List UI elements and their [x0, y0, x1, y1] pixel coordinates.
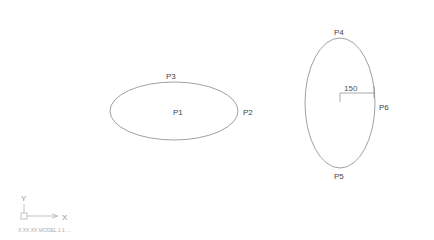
ellipse-vertical[interactable]: P4 P5 P6: [305, 28, 389, 181]
dimension-value: 150: [344, 84, 358, 93]
label-p2: P2: [243, 108, 253, 117]
label-p3: P3: [166, 72, 176, 81]
ucs-icon: Y X: [21, 194, 68, 222]
radius-dimension[interactable]: 150: [340, 84, 375, 102]
status-bar: X:XX,XX MODEL 1:1 ...: [18, 226, 434, 234]
label-p5: P5: [334, 172, 344, 181]
label-p4: P4: [334, 28, 344, 37]
ellipse-horizontal[interactable]: P1 P2 P3: [110, 72, 253, 140]
ucs-x-label: X: [62, 213, 68, 222]
drawing-canvas[interactable]: P1 P2 P3 P4 P5 P6 150 Y X: [0, 0, 434, 240]
label-p1: P1: [173, 108, 183, 117]
label-p6: P6: [379, 103, 389, 112]
ucs-y-label: Y: [21, 194, 27, 203]
